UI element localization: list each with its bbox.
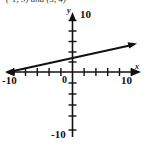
origin-label: 0 bbox=[62, 74, 67, 85]
x-axis-min-label: -10 bbox=[2, 74, 17, 86]
y-axis-min-label: -10 bbox=[51, 128, 66, 140]
x-axis-name-label: x bbox=[135, 62, 139, 71]
plotted-line bbox=[11, 45, 132, 72]
x-axis-max-label: 10 bbox=[121, 74, 132, 86]
plotted-line-right-arrow-icon bbox=[128, 42, 138, 48]
coordinate-plane-svg bbox=[0, 0, 145, 146]
graph-screenshot: (-1, 3) and (5, 4) bbox=[0, 0, 145, 146]
y-axis-max-label: 10 bbox=[80, 8, 91, 20]
y-axis-name-label: y bbox=[67, 6, 71, 15]
